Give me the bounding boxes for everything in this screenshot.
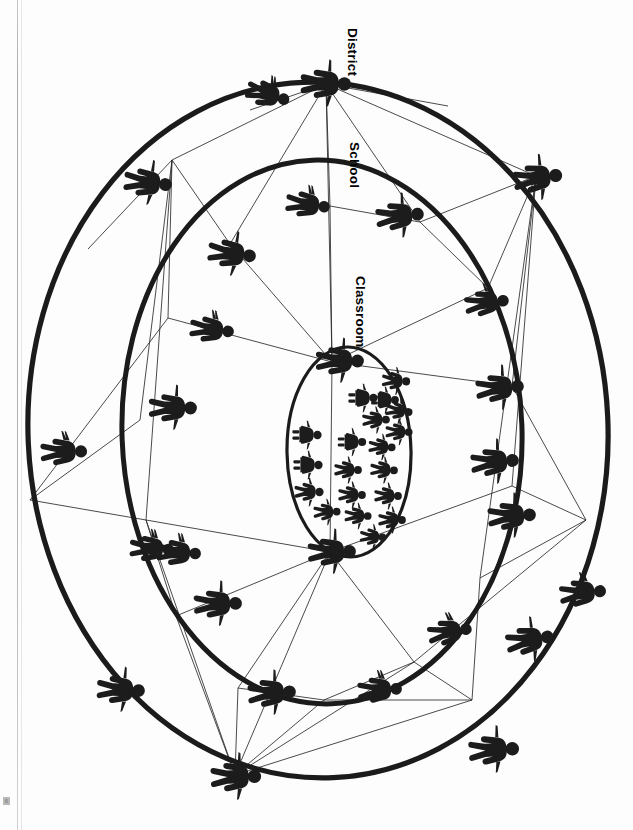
school-actor	[462, 280, 510, 318]
school-actor	[285, 182, 332, 219]
school-actor	[193, 580, 243, 627]
school-actor	[206, 228, 259, 278]
student-figure	[359, 523, 386, 550]
student-figure	[293, 450, 322, 479]
district-actor	[467, 724, 521, 775]
school-actor	[156, 532, 201, 566]
figure-page: 6	[0, 0, 633, 830]
label-classroom: Classroom	[353, 276, 368, 348]
student-figure	[338, 428, 366, 456]
student-figure	[374, 482, 402, 510]
school-actor	[189, 308, 236, 344]
district-actor	[149, 384, 197, 430]
label-school: School	[347, 142, 362, 188]
district-actor	[40, 430, 88, 466]
student-figure	[338, 481, 366, 509]
classroom-actor	[307, 528, 357, 575]
student-figure	[295, 477, 324, 506]
student-group	[292, 366, 414, 550]
school-actor	[246, 668, 297, 717]
ring-labels: District School Classroom	[345, 28, 368, 348]
student-figure	[313, 498, 341, 526]
school-actor	[425, 608, 474, 648]
school-actor	[502, 613, 557, 666]
nested-ecology-diagram: District School Classroom	[0, 0, 633, 830]
label-district: District	[345, 28, 360, 76]
student-figure	[334, 456, 362, 484]
school-actor-group	[156, 182, 557, 716]
district-actor	[96, 666, 146, 713]
student-figure	[345, 502, 372, 529]
student-figure	[368, 433, 396, 461]
student-figure	[292, 420, 321, 449]
district-actor	[510, 151, 565, 204]
student-figure	[348, 383, 377, 412]
student-figure	[370, 456, 398, 485]
